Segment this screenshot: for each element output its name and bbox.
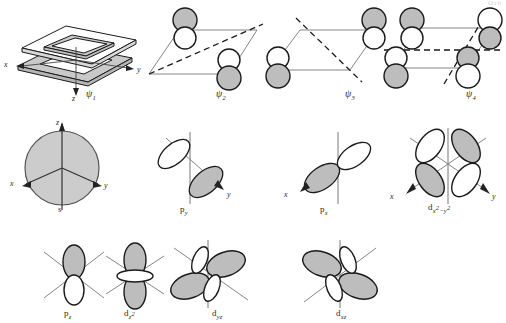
orbital-diagram-s: x y z xyxy=(12,122,112,212)
orbital-label-dxz: dxz xyxy=(336,308,347,320)
orbital-diagram-dyz xyxy=(168,238,254,312)
axis-label-y: y xyxy=(227,190,231,199)
axis-label-z: z xyxy=(72,94,75,103)
orbital-figure: Orb xyxy=(0,0,506,323)
orbital-label-dz2: dz2 xyxy=(124,308,135,320)
orbital-label-dyz: dyz xyxy=(212,308,223,320)
axis-label-y: y xyxy=(137,65,141,74)
orbital-label-pz: pz xyxy=(64,308,71,320)
orbital-label-px: px xyxy=(320,204,328,216)
orbital-diagram-py: y xyxy=(148,130,238,210)
orbital-diagram-px: x xyxy=(290,130,380,210)
axis-label-y: y xyxy=(492,192,496,201)
orbital-label-dx2y2: dx2−y2 xyxy=(428,202,450,214)
orbital-label-psi2: ψ2 xyxy=(216,88,226,101)
axis-label-x: x xyxy=(10,179,14,188)
orbital-label-psi1: ψ1 xyxy=(86,88,96,101)
axis-label-y: y xyxy=(104,181,108,190)
axis-label-z: z xyxy=(56,118,59,127)
axis-label-x: x xyxy=(4,60,8,69)
orbital-diagram-psi2 xyxy=(143,4,268,99)
page-header-fragment: Orb xyxy=(488,0,502,5)
orbital-diagram-dxz xyxy=(296,238,382,312)
orbital-diagram-psi1: x y z xyxy=(0,4,150,104)
orbital-label-psi4: ψ4 xyxy=(466,88,476,101)
axis-label-x: x xyxy=(284,190,288,199)
orbital-label-psi3: ψ3 xyxy=(345,88,355,101)
orbital-diagram-psi3 xyxy=(262,6,387,101)
orbital-diagram-dx2y2: x y xyxy=(398,124,498,212)
orbital-diagram-dz2 xyxy=(100,242,170,308)
orbital-diagram-psi4 xyxy=(382,6,506,101)
orbital-label-py: py xyxy=(180,204,188,216)
orbital-label-s: s xyxy=(58,204,62,214)
axis-label-x: x xyxy=(390,192,394,201)
